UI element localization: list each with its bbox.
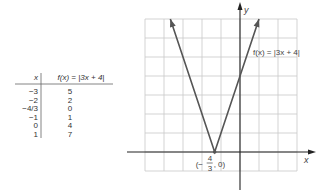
vertex-label-close: , 0): [214, 160, 226, 169]
vertex-label-open: (−: [196, 160, 204, 169]
x-axis-arrow-icon: [308, 150, 316, 155]
function-line: [170, 19, 259, 152]
vertex-label-numerator: 4: [208, 154, 213, 163]
function-graph: x y f(x) = |3x + 4| (− 4 3 , 0): [0, 0, 331, 195]
vertex-point: [213, 150, 217, 154]
left-arrow-icon: [170, 19, 176, 28]
curve: [170, 19, 259, 154]
x-axis-label: x: [303, 155, 309, 165]
vertex-label-denominator: 3: [208, 164, 213, 173]
right-arrow-icon: [254, 19, 260, 28]
y-axis-label: y: [243, 5, 249, 15]
grid: [145, 19, 297, 171]
function-label: f(x) = |3x + 4|: [253, 48, 300, 57]
y-axis-arrow-icon: [238, 2, 243, 10]
